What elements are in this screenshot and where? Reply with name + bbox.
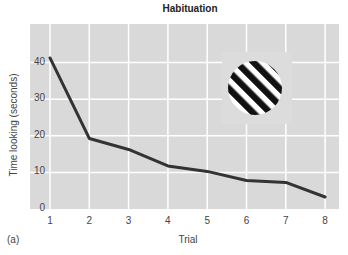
line-chart: 010203040 12345678 bbox=[0, 0, 348, 255]
svg-text:4: 4 bbox=[165, 215, 171, 226]
svg-text:0: 0 bbox=[39, 202, 45, 213]
svg-text:1: 1 bbox=[47, 215, 53, 226]
svg-text:10: 10 bbox=[34, 165, 46, 176]
svg-text:7: 7 bbox=[283, 215, 289, 226]
svg-text:3: 3 bbox=[126, 215, 132, 226]
svg-text:2: 2 bbox=[87, 215, 93, 226]
svg-text:30: 30 bbox=[34, 92, 46, 103]
striped-stimulus-icon bbox=[228, 61, 282, 115]
plot-area bbox=[30, 24, 339, 209]
svg-text:8: 8 bbox=[322, 215, 328, 226]
svg-text:6: 6 bbox=[244, 215, 250, 226]
svg-text:20: 20 bbox=[34, 129, 46, 140]
svg-text:40: 40 bbox=[34, 56, 46, 67]
x-axis-ticks: 12345678 bbox=[47, 215, 328, 226]
svg-text:5: 5 bbox=[204, 215, 210, 226]
